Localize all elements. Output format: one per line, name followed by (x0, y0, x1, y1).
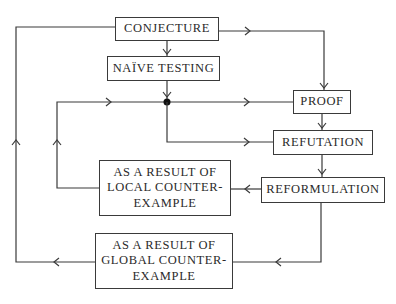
node-label: REFUTATION (282, 135, 364, 151)
node-label: CONJECTURE (124, 21, 210, 37)
node-global-counterexample: AS A RESULT OF GLOBAL COUNTER- EXAMPLE (95, 233, 233, 289)
node-label: NAÏVE TESTING (113, 61, 215, 77)
method-of-proofs-and-refutations-diagram: CONJECTURE NAÏVE TESTING PROOF REFUTATIO… (0, 0, 396, 304)
node-conjecture: CONJECTURE (115, 17, 219, 41)
node-refutation: REFUTATION (273, 130, 373, 155)
node-label: AS A RESULT OF GLOBAL COUNTER- EXAMPLE (101, 238, 227, 285)
node-label: AS A RESULT OF LOCAL COUNTER- EXAMPLE (107, 165, 223, 212)
edge-global-conjecture (16, 27, 115, 262)
edge-conjecture-proof (219, 31, 324, 90)
node-proof: PROOF (293, 90, 351, 114)
edge-junction-refutation (167, 102, 273, 142)
edge-reformulation-global (233, 203, 321, 262)
node-label: PROOF (300, 94, 343, 110)
node-local-counterexample: AS A RESULT OF LOCAL COUNTER- EXAMPLE (99, 160, 231, 216)
node-naive-testing: NAÏVE TESTING (107, 56, 220, 81)
node-reformulation: REFORMULATION (261, 177, 385, 203)
node-label: REFORMULATION (266, 182, 379, 198)
